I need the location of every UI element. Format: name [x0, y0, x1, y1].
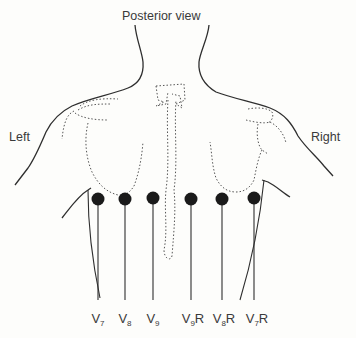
- spine: [156, 84, 185, 259]
- body-outline: [15, 25, 333, 218]
- lead-label-v7r: V7R: [246, 311, 269, 328]
- electrode-v8: [119, 193, 132, 206]
- electrodes: [92, 192, 261, 206]
- posterior-torso-diagram: [0, 0, 356, 338]
- lead-label-v7: V7: [91, 311, 104, 328]
- scapula-outlines: [62, 99, 286, 195]
- lead-wires: [88, 180, 264, 300]
- left-side-label: Left: [9, 131, 30, 144]
- right-side-label: Right: [311, 131, 340, 144]
- diagram-title: Posterior view: [122, 10, 201, 23]
- electrode-v9r: [185, 193, 198, 206]
- lead-label-v9: V9: [146, 311, 159, 328]
- electrode-v7: [92, 193, 105, 206]
- lead-label-v9r: V9R: [182, 311, 205, 328]
- lead-label-v8: V8: [118, 311, 131, 328]
- electrode-v7r: [248, 192, 261, 205]
- lead-label-v8r: V8R: [213, 311, 236, 328]
- electrode-v8r: [216, 193, 229, 206]
- electrode-v9: [147, 192, 160, 205]
